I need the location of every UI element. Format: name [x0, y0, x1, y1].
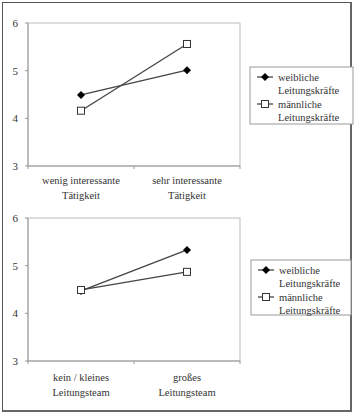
series-line [81, 250, 187, 291]
legend-label: Leitungskräfte [278, 112, 340, 123]
diamond-marker-icon [77, 91, 85, 99]
x-category-label: Tätigkeit [62, 190, 100, 201]
x-category-label: Tätigkeit [168, 190, 206, 201]
x-category-label: Leitungsteam [158, 387, 215, 398]
legend-label: weibliche [279, 265, 320, 276]
square-marker-icon [184, 40, 191, 47]
figure-canvas: 3456wenig interessanteTätigkeitsehr inte… [0, 0, 355, 415]
square-marker-icon [78, 286, 85, 293]
x-category-label: großes [173, 372, 201, 383]
square-marker-icon [184, 268, 191, 275]
legend-label: weibliche [278, 72, 319, 83]
x-category-label: wenig interessante [42, 175, 120, 186]
square-marker-icon [78, 107, 85, 114]
x-category-label: kein / kleines [53, 372, 109, 383]
legend-label: männliche [279, 292, 323, 303]
y-tick-label: 3 [13, 160, 19, 172]
y-tick-label: 3 [13, 355, 19, 367]
chart-1: 3456wenig interessanteTätigkeitsehr inte… [13, 17, 354, 201]
legend-label: Leitungskräfte [279, 305, 341, 316]
square-marker-icon [263, 294, 270, 301]
plot-area [28, 218, 240, 361]
plot-area [28, 23, 240, 166]
legend-label: Leitungskräfte [279, 278, 341, 289]
legend-label: Leitungskräfte [278, 85, 340, 96]
y-tick-label: 5 [13, 65, 19, 77]
y-tick-label: 4 [13, 307, 19, 319]
square-marker-icon [262, 101, 269, 108]
chart-2: 3456kein / kleinesLeitungsteamgroßesLeit… [13, 212, 352, 398]
diamond-marker-icon [183, 66, 191, 74]
legend: weiblicheLeitungskräftemännlicheLeitungs… [251, 260, 351, 316]
y-tick-label: 6 [13, 212, 19, 224]
legend: weiblicheLeitungskräftemännlicheLeitungs… [250, 67, 353, 124]
x-category-label: sehr interessante [152, 175, 222, 186]
diamond-marker-icon [183, 246, 191, 254]
series-line [81, 272, 187, 290]
x-category-label: Leitungsteam [52, 387, 109, 398]
y-tick-label: 4 [13, 112, 19, 124]
y-tick-label: 6 [13, 17, 19, 29]
series-line [81, 44, 187, 111]
legend-label: männliche [278, 99, 322, 110]
series-line [81, 70, 187, 95]
y-tick-label: 5 [13, 260, 19, 272]
